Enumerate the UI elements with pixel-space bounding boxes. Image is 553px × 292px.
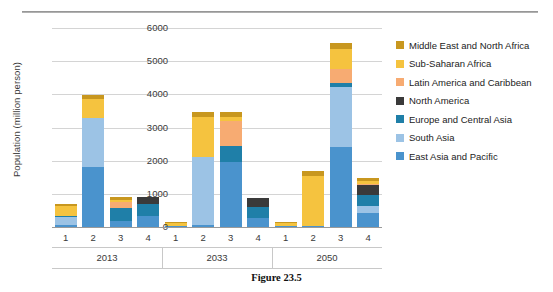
bar-group-2033 [162,28,272,227]
bar-segment[interactable] [55,217,77,225]
stacked-bar[interactable] [357,28,379,227]
legend-label: Europe and Central Asia [409,114,512,125]
bar-segment[interactable] [330,49,352,69]
bar-segment[interactable] [302,176,324,225]
x-axis-category-label: 4 [137,232,159,243]
stacked-bar[interactable] [192,28,214,227]
x-axis-group-label: 2050 [272,248,382,268]
bar-segment[interactable] [247,198,269,207]
y-axis-tick-label: 2000 [128,155,168,166]
legend-label: Sub-Saharan Africa [409,58,491,69]
bar-segment[interactable] [82,99,104,119]
bar-segment[interactable] [220,146,242,163]
x-axis-group-labels: 201320332050 [52,248,382,268]
bar-group-2050 [272,28,382,227]
chart-figure: Population (million person) 010002000300… [0,14,553,266]
legend-label: Middle East and North Africa [409,40,529,51]
legend-swatch-icon [396,60,404,68]
x-axis-category-label: 3 [220,232,242,243]
bar-segment[interactable] [110,208,132,221]
legend-swatch-icon [396,97,404,105]
bar-segment[interactable] [357,213,379,227]
bar-segment[interactable] [192,117,214,157]
x-axis-group-label: 2013 [52,248,162,268]
x-axis-category-label: 2 [192,232,214,243]
stacked-bar[interactable] [165,28,187,227]
x-axis-category-label: 3 [330,232,352,243]
legend-item[interactable]: East Asia and Pacific [396,147,551,166]
stacked-bar[interactable] [330,28,352,227]
legend-item[interactable]: Sub-Saharan Africa [396,55,551,74]
legend-swatch-icon [396,115,404,123]
bar-segment[interactable] [357,195,379,206]
category-label-group-2033: 1234 [162,228,272,247]
bar-segment[interactable] [82,118,104,167]
legend-item[interactable]: Latin America and Caribbean [396,73,551,92]
bar-segment[interactable] [192,157,214,225]
x-axis-bottom-divider [52,268,382,269]
legend-swatch-icon [396,134,404,142]
bar-segment[interactable] [330,147,352,227]
legend-swatch-icon [396,152,404,160]
bar-segment[interactable] [55,206,77,216]
x-axis-category-label: 4 [247,232,269,243]
x-axis-category-label: 1 [165,232,187,243]
category-label-group-2013: 1234 [52,228,162,247]
legend-item[interactable]: South Asia [396,129,551,148]
header-divider [22,11,538,13]
figure-caption: Figure 23.5 [0,272,553,283]
bar-segment[interactable] [330,69,352,83]
x-axis-category-label: 2 [82,232,104,243]
x-axis-category-labels: 123412341234 [52,228,382,247]
bar-segment[interactable] [82,167,104,227]
x-axis-category-label: 1 [55,232,77,243]
bar-segment[interactable] [330,87,352,147]
bar-segment[interactable] [220,121,242,146]
bar-segment[interactable] [247,207,269,218]
legend-swatch-icon [396,78,404,86]
x-axis-category-label: 2 [302,232,324,243]
y-axis-tick-label: 5000 [128,55,168,66]
legend-item[interactable]: North America [396,92,551,111]
plot-area [52,28,382,227]
bar-segment[interactable] [357,206,379,213]
y-axis-tick-label: 4000 [128,88,168,99]
legend-item[interactable]: Middle East and North Africa [396,36,551,55]
bar-groups [52,28,382,227]
x-axis-category-label: 4 [357,232,379,243]
chart-legend: Middle East and North AfricaSub-Saharan … [396,36,551,166]
x-axis-category-label: 3 [110,232,132,243]
x-axis-group-label: 2033 [162,248,272,268]
y-axis-tick-label: 1000 [128,188,168,199]
legend-item[interactable]: Europe and Central Asia [396,110,551,129]
y-axis-tick-label: 6000 [128,22,168,33]
bar-segment[interactable] [247,218,269,227]
stacked-bar[interactable] [247,28,269,227]
stacked-bar[interactable] [302,28,324,227]
bar-segment[interactable] [137,204,159,216]
y-axis-title: Population (million person) [11,40,22,200]
stacked-bar[interactable] [82,28,104,227]
stacked-bar[interactable] [220,28,242,227]
legend-label: North America [409,95,469,106]
x-axis-category-label: 1 [275,232,297,243]
category-label-group-2050: 1234 [272,228,382,247]
legend-label: South Asia [409,132,454,143]
legend-label: East Asia and Pacific [409,151,498,162]
stacked-bar[interactable] [275,28,297,227]
bar-segment[interactable] [357,185,379,195]
legend-swatch-icon [396,41,404,49]
y-axis-tick-label: 3000 [128,122,168,133]
stacked-bar[interactable] [55,28,77,227]
bar-segment[interactable] [220,162,242,227]
legend-label: Latin America and Caribbean [409,77,532,88]
